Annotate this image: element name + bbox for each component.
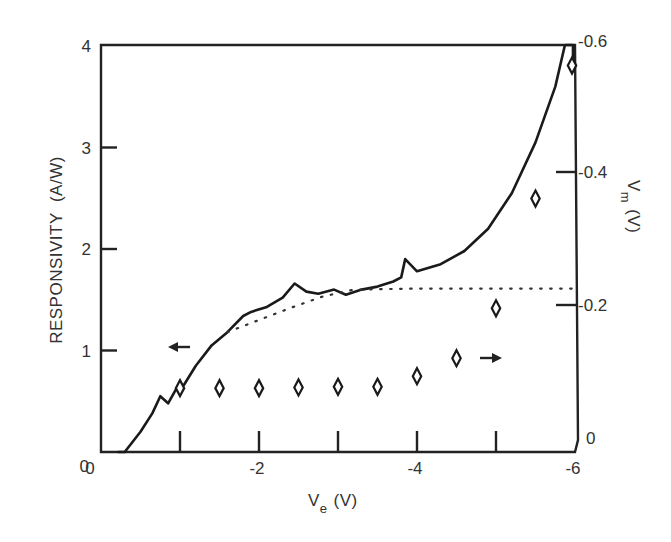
vm-data-point [452, 350, 460, 366]
chart-figure: 01234 0-0.2-0.4-0.6 0-2-4-6 RESPONSIVITY… [0, 0, 671, 542]
y2-tick-label: -0.6 [578, 32, 607, 51]
vm-diamond-markers [176, 58, 576, 397]
y2-axis-title: Vm(V) [618, 180, 643, 233]
responsivity-extrapolation-dotted [227, 289, 575, 333]
y-tick-label: 3 [82, 139, 91, 158]
y2-tick-label: -0.4 [578, 163, 607, 182]
right-axis-tick-labels: 0-0.2-0.4-0.6 [578, 32, 607, 448]
x-tick-label: -6 [565, 459, 580, 478]
x-axis-title: Ve(V) [308, 491, 358, 516]
right-axis-arrow-icon [480, 353, 502, 363]
vm-data-point [294, 379, 302, 395]
y-axis-title: RESPONSIVITY (A/W) [47, 156, 66, 344]
vm-data-point [334, 379, 342, 395]
y2-tick-label: 0 [586, 429, 595, 448]
vm-data-point [531, 191, 539, 207]
vm-data-point [492, 300, 500, 316]
vm-data-point [413, 368, 421, 384]
svg-text:Vm(V): Vm(V) [618, 180, 643, 233]
left-axis-tick-labels: 01234 [80, 37, 91, 476]
left-axis-ticks [101, 148, 117, 351]
x-tick-label: -4 [407, 459, 422, 478]
bottom-axis-ticks [180, 431, 496, 452]
vm-data-point [255, 380, 263, 396]
right-axis-ticks [556, 172, 576, 305]
left-axis-arrow-icon [168, 342, 190, 352]
vm-data-point [373, 379, 381, 395]
responsivity-curve [118, 45, 573, 452]
y-tick-label: 1 [82, 342, 91, 361]
vm-data-point [215, 380, 223, 396]
y2-tick-label: -0.2 [578, 296, 607, 315]
y-tick-label: 4 [82, 37, 91, 56]
vm-data-point [176, 380, 184, 396]
y-tick-label: 2 [82, 240, 91, 259]
svg-text:Ve(V): Ve(V) [308, 491, 358, 516]
x-tick-label: -2 [249, 459, 264, 478]
bottom-axis-tick-labels: 0-2-4-6 [85, 459, 580, 478]
x-tick-label: 0 [85, 459, 94, 478]
